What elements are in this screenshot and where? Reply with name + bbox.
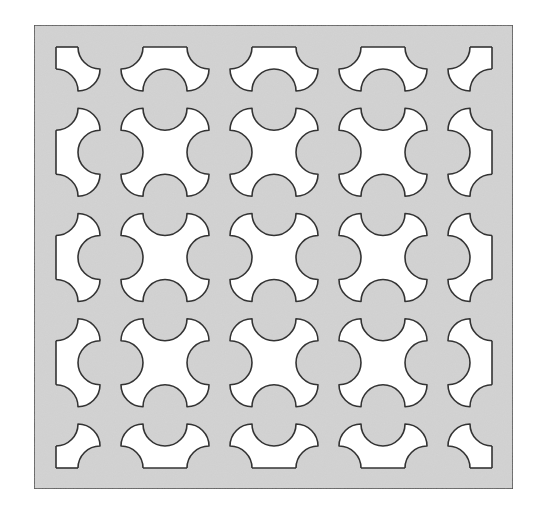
pattern-figure [0, 0, 541, 520]
